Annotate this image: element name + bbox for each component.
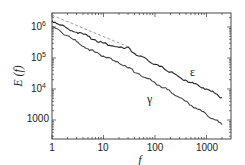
y-tick-label-1e6: 106: [31, 20, 46, 32]
log-log-chart: 106 105 104 1000 1 10 100 1000 f E (f) ε…: [0, 0, 245, 165]
y-tick-label-1e5: 105: [31, 51, 46, 63]
x-tick-label-10: 10: [97, 142, 109, 153]
series-line-reference-dashed: [52, 15, 128, 47]
x-tick-label-100: 100: [147, 142, 164, 153]
plot-area: [52, 13, 231, 139]
x-tick-label-1000: 1000: [196, 142, 219, 153]
series-label-epsilon: ε: [190, 65, 195, 79]
series-line-epsilon: [52, 21, 222, 98]
series-line-gamma: [52, 27, 222, 125]
series-label-gamma: γ: [146, 92, 153, 106]
x-axis-title: f: [138, 153, 143, 165]
y-tick-label-1e4: 104: [31, 82, 46, 94]
y-tick-label-1000: 1000: [27, 113, 50, 124]
series-lines: [52, 15, 222, 125]
y-axis-title: E (f): [11, 65, 25, 88]
x-tick-label-1: 1: [49, 142, 55, 153]
